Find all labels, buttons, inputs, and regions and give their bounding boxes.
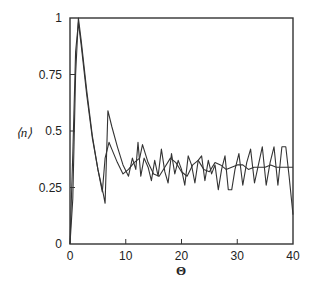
x-tick-label: 10: [119, 249, 133, 263]
data-series: [70, 18, 293, 244]
x-tick-label: 0: [67, 249, 74, 263]
x-tick-label: 40: [286, 249, 300, 263]
series-line-oscillating: [70, 23, 293, 245]
x-axis-label: Θ: [176, 263, 186, 278]
y-tick-label: 1: [55, 11, 62, 25]
series-line-damped: [70, 18, 293, 244]
x-tick-label: 20: [175, 249, 189, 263]
x-axis-tick-labels: 010203040: [67, 249, 300, 263]
y-axis-tick-labels: 00.250.50.751: [39, 11, 63, 251]
y-tick-label: 0.5: [45, 124, 62, 138]
y-tick-label: 0: [55, 237, 62, 251]
y-tick-label: 0.75: [39, 68, 63, 82]
x-tick-label: 30: [231, 249, 245, 263]
line-chart: 00.250.50.751 010203040 ⟨n⟩ Θ: [0, 0, 312, 287]
y-axis-label: ⟨n⟩: [16, 125, 33, 140]
plot-frame: [70, 18, 293, 244]
axis-ticks: [70, 75, 237, 245]
y-tick-label: 0.25: [39, 181, 63, 195]
